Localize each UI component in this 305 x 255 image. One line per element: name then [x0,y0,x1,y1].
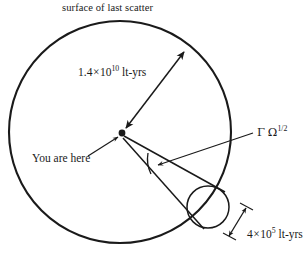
omega-exponent: 1/2 [277,124,287,133]
angle-label-leader [158,133,253,165]
radius-times: × [92,66,100,78]
small-scale-tick-top [240,203,253,210]
gamma-symbol: Γ [257,125,265,139]
wedge-line-lower [123,138,204,229]
radius-label: 1.4×1010 lt-yrs [78,66,146,78]
small-scale-base: 10 [260,228,272,240]
radius-base: 10 [100,66,112,78]
cosmology-diagram: surface of last scatter 1.4×1010 lt-yrs … [0,0,305,255]
small-scale-exponent: 5 [272,226,276,235]
angle-arc-marker [147,153,151,174]
radius-arrow [126,52,184,128]
small-scale-unit: lt-yrs [279,228,303,240]
radius-exponent: 10 [111,64,119,73]
observer-dot [119,130,126,137]
radius-mantissa: 1.4 [78,66,92,78]
radius-unit: lt-yrs [122,66,146,78]
small-scale-mantissa: 4 [247,228,253,240]
causal-horizon-circle [187,186,229,228]
small-scale-arrow [229,208,246,236]
angle-label: Γ Ω1/2 [257,126,287,138]
small-scale-label: 4×105 lt-yrs [247,228,303,240]
observer-label-leader [88,137,118,156]
wedge-line-upper [124,136,225,192]
observer-label: You are here [32,152,90,164]
diagram-title: surface of last scatter [62,2,153,13]
omega-symbol: Ω [268,125,278,139]
